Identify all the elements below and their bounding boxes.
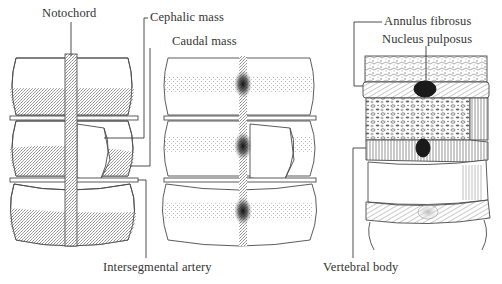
nucleus-pulposus-1 xyxy=(414,81,436,97)
label-vertebral-body: Vertebral body xyxy=(323,260,398,275)
label-nucleus-pulposus: Nucleus pulposus xyxy=(382,32,472,47)
label-notochord: Notochord xyxy=(42,6,96,21)
notochord-rod xyxy=(65,54,77,246)
label-intersegmental-artery: Intersegmental artery xyxy=(103,260,212,275)
panel-b-resegmentation xyxy=(162,56,316,246)
label-cephalic-mass: Cephalic mass xyxy=(150,10,224,25)
panel-a-sclerotomes xyxy=(10,54,138,246)
nucleus-pulposus-2 xyxy=(416,139,430,157)
label-annulus-fibrosus: Annulus fibrosus xyxy=(384,14,471,29)
label-caudal-mass: Caudal mass xyxy=(172,34,237,49)
panel-c-disc-vertebra xyxy=(363,56,490,250)
